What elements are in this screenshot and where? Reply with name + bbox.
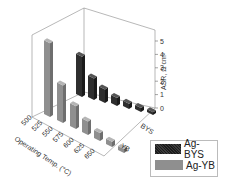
x-tick-label: 625 <box>72 141 85 154</box>
bar-ag-yb <box>106 137 115 147</box>
bar-ag-bys <box>76 52 85 97</box>
bar-ag-bys <box>111 93 120 106</box>
legend-item-ag-bys: Ag-BYS <box>155 141 217 157</box>
legend-item-ag-yb: Ag-YB <box>155 157 217 173</box>
x-tick-label: 525 <box>30 119 43 132</box>
bar-ag-yb <box>82 117 91 135</box>
x-tick-label: 600 <box>62 136 75 149</box>
legend: Ag-BYS Ag-YB <box>150 140 218 177</box>
x-tick-label: 575 <box>51 130 64 143</box>
legend-swatch-ag-bys <box>155 144 181 154</box>
bar-ag-bys <box>99 85 108 103</box>
bar-ag-yb <box>70 101 79 129</box>
bar-ag-yb <box>57 80 66 123</box>
legend-label: Ag-BYS <box>184 138 217 160</box>
z-tick-label: 1 <box>160 91 164 98</box>
x-tick-label: 650 <box>83 147 96 160</box>
bar-ag-yb <box>94 128 103 141</box>
legend-swatch-ag-yb <box>155 160 183 170</box>
z-axis-label: ASR, Ω cm² <box>160 52 167 90</box>
bar-ag-bys <box>123 99 132 109</box>
bar-ag-yb <box>44 38 53 117</box>
legend-label: Ag-YB <box>186 160 215 171</box>
z-tick-label: 0 <box>160 105 164 112</box>
z-tick-label: 5 <box>160 38 164 45</box>
x-tick-label: 500 <box>20 113 33 126</box>
depth-tick-label: BYS <box>139 122 155 136</box>
x-tick-label: 550 <box>41 125 54 138</box>
bar-ag-bys <box>88 74 97 100</box>
bar-ag-bys <box>135 103 144 112</box>
